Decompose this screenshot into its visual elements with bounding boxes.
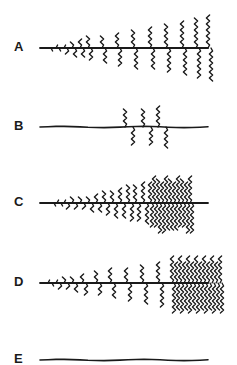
cluster-up [198, 262, 201, 283]
cluster-up [194, 256, 197, 283]
branch-down [81, 48, 84, 57]
cluster-up [148, 182, 151, 203]
cluster-up [214, 262, 217, 283]
cluster-up [160, 182, 163, 203]
branch-up [156, 106, 159, 127]
branch-up [80, 274, 83, 283]
cluster-down [216, 283, 219, 310]
cluster-up [172, 182, 175, 203]
branch-down [84, 283, 87, 295]
cluster-up [218, 256, 221, 283]
branch-down [160, 283, 163, 307]
branch-up [94, 194, 97, 203]
figure: A B C D E [0, 0, 237, 365]
cluster-down [162, 203, 165, 233]
cluster-down [200, 283, 203, 310]
branch-up [180, 21, 183, 48]
branch-up [100, 36, 103, 48]
cluster-down [178, 203, 181, 227]
branch-down [130, 203, 133, 221]
branch-up [78, 39, 81, 48]
branch-up [148, 27, 151, 48]
branch-down [134, 48, 137, 69]
cluster-down [182, 203, 185, 227]
cluster-up [174, 262, 177, 283]
branch-down [73, 48, 76, 57]
cluster-down [174, 203, 177, 230]
cluster-up [156, 179, 159, 203]
branch-down [149, 127, 152, 145]
branch-down [209, 48, 212, 81]
branch-down [137, 203, 140, 221]
branch-down [106, 203, 109, 215]
branch-up [115, 33, 118, 48]
branch-down [103, 48, 106, 63]
cluster-down [170, 203, 173, 230]
branch-down [122, 203, 125, 218]
branch-up [123, 109, 126, 127]
cluster-down [166, 203, 169, 230]
cluster-down [212, 283, 215, 313]
branch-up [110, 191, 113, 203]
branch-down [197, 48, 200, 78]
cluster-down [180, 283, 183, 313]
branch-up [131, 30, 134, 48]
branch-down [74, 283, 77, 292]
branch-down [98, 203, 101, 212]
branch-down [90, 203, 93, 212]
branch-up [194, 18, 197, 48]
cluster-up [180, 179, 183, 203]
cluster-down [188, 283, 191, 313]
backbone-b [40, 126, 208, 127]
cluster-down [196, 283, 199, 313]
cluster-up [152, 176, 155, 203]
cluster-down [208, 283, 211, 310]
branch-up [102, 191, 105, 203]
cluster-up [170, 256, 173, 283]
branch-up [156, 262, 159, 283]
cluster-down [190, 203, 193, 233]
branch-down [98, 283, 101, 295]
cluster-up [184, 182, 187, 203]
branch-down [164, 127, 167, 148]
cluster-down [172, 283, 175, 313]
cluster-up [188, 176, 191, 203]
branch-down [144, 283, 147, 304]
cluster-up [164, 176, 167, 203]
branch-up [206, 15, 209, 48]
cluster-up [178, 256, 181, 283]
branch-down [65, 48, 68, 54]
branch-down [151, 48, 154, 69]
cluster-down [186, 203, 189, 233]
cluster-up [168, 179, 171, 203]
cluster-down [204, 283, 207, 313]
cluster-up [210, 256, 213, 283]
branch-down [112, 283, 115, 298]
cluster-down [150, 203, 153, 227]
branch-up [118, 188, 121, 203]
cluster-up [190, 262, 193, 283]
backbone-e [40, 359, 208, 360]
branch-up [164, 24, 167, 48]
cluster-up [202, 256, 205, 283]
cluster-down [154, 203, 157, 227]
branch-down [128, 283, 131, 301]
branch-down [114, 203, 117, 218]
branch-diagram-svg [0, 0, 237, 365]
branch-up [133, 185, 136, 203]
branch-down [89, 48, 92, 60]
branch-up [86, 36, 89, 48]
cluster-down [176, 283, 179, 310]
branch-up [140, 265, 143, 283]
branch-up [141, 182, 144, 203]
cluster-up [206, 262, 209, 283]
cluster-down [220, 283, 223, 313]
cluster-down [184, 283, 187, 310]
branch-down [131, 127, 134, 145]
cluster-down [158, 203, 161, 233]
cluster-down [192, 283, 195, 310]
branch-down [183, 48, 186, 75]
branch-down [167, 48, 170, 72]
branch-up [126, 185, 129, 203]
cluster-up [186, 256, 189, 283]
